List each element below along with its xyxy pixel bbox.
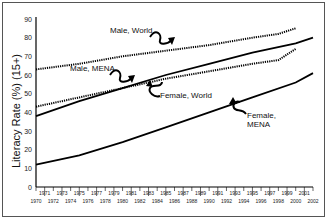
- x-tick-label-lower: 1988: [186, 198, 197, 204]
- x-tick-label-lower: 1998: [273, 198, 284, 204]
- x-tick-label-upper: 1983: [143, 190, 154, 196]
- x-tick-label-upper: 1993: [230, 190, 241, 196]
- arrowhead-male-world-icon: [168, 37, 175, 45]
- annotations: Literacy Rate (%) (15+) Male, World Male…: [10, 26, 276, 168]
- x-tick-label-upper: 1977: [91, 190, 102, 196]
- x-tick-label-lower: 1974: [65, 198, 76, 204]
- x-tick-label-upper: 1999: [281, 190, 292, 196]
- y-tick-label: 30: [24, 128, 32, 135]
- x-tick-label-lower: 1996: [256, 198, 267, 204]
- x-tick-label-lower: 1990: [204, 198, 215, 204]
- x-tick-label-lower: 1972: [48, 198, 59, 204]
- x-tick-label-lower: 1982: [134, 198, 145, 204]
- x-tick-label-upper: 1987: [178, 190, 189, 196]
- annotation-female-world: Female, World: [160, 91, 212, 100]
- x-tick-label-upper: 2001: [299, 190, 310, 196]
- x-tick-label-lower: 1970: [30, 198, 41, 204]
- x-tick-label-upper: 1973: [56, 190, 67, 196]
- x-tick-label-upper: 1995: [247, 190, 258, 196]
- x-tick-label-lower: 1986: [169, 198, 180, 204]
- x-tick-label-lower: 1980: [117, 198, 128, 204]
- x-tick-label-upper: 1997: [264, 190, 275, 196]
- annotation-male-world: Male, World: [110, 26, 153, 35]
- x-tick-label-upper: 1981: [126, 190, 137, 196]
- x-tick-label-lower: 1976: [82, 198, 93, 204]
- y-tick-label: 80: [24, 34, 32, 41]
- x-tick-label-lower: 2002: [307, 198, 318, 204]
- x-tick-label-lower: 1978: [100, 198, 111, 204]
- x-tick-label-upper: 1985: [160, 190, 171, 196]
- annotation-male-mena: Male, MENA: [70, 64, 116, 73]
- annotation-female-mena-line1: Female,: [247, 111, 276, 120]
- x-tick-label-upper: 1975: [74, 190, 85, 196]
- y-tick-label: 10: [24, 165, 32, 172]
- x-tick-label-lower: 2000: [290, 198, 301, 204]
- x-tick-label-lower: 1992: [221, 198, 232, 204]
- arrowhead-male-mena-icon: [128, 75, 135, 83]
- y-tick-label: 40: [24, 109, 32, 116]
- x-tick-label-lower: 1984: [152, 198, 163, 204]
- y-tick-label: 70: [24, 53, 32, 60]
- x-tick-label-lower: 1994: [238, 198, 249, 204]
- x-tick-label-upper: 1971: [39, 190, 50, 196]
- y-tick-label: 0: [28, 184, 32, 191]
- x-tick-label-upper: 1989: [195, 190, 206, 196]
- y-tick-label: 50: [24, 90, 32, 97]
- arrowhead-female-mena-icon: [229, 97, 237, 104]
- annotation-female-mena-line2: MENA: [247, 120, 271, 129]
- y-axis-label: Literacy Rate (%) (15+): [10, 54, 22, 168]
- y-tick-label: 60: [24, 72, 32, 79]
- y-tick-label: 20: [24, 146, 32, 153]
- y-tick-label: 90: [24, 16, 32, 23]
- x-tick-label-upper: 1979: [108, 190, 119, 196]
- x-tick-label-upper: 1991: [212, 190, 223, 196]
- literacy-rate-line-chart: 0102030405060708090197119731975197719791…: [0, 0, 329, 221]
